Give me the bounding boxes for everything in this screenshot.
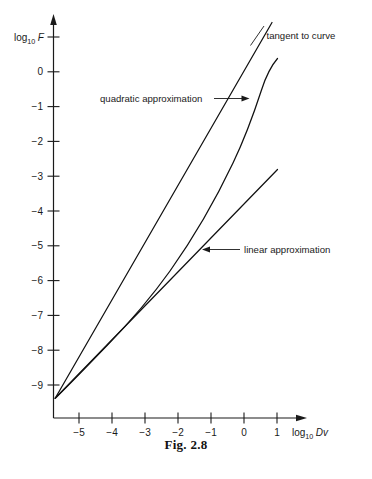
annotation-quadratic-approximation: quadratic approximation (100, 93, 250, 104)
y-tick-label-m1: −1 (32, 101, 44, 112)
y-tick-label-m2: −2 (32, 136, 44, 147)
figure-root: 0 −1 −2 −3 −4 −5 −6 −7 −8 −9 −5 −4 −3 −2 (0, 0, 372, 479)
axes-group (50, 14, 307, 421)
chart-canvas: 0 −1 −2 −3 −4 −5 −6 −7 −8 −9 −5 −4 −3 −2 (0, 0, 372, 479)
series-tangent-to-curve (55, 23, 272, 399)
y-axis-title: log10F (14, 32, 45, 46)
y-tick-label-m6: −6 (32, 275, 44, 286)
y-axis-arrowhead (50, 14, 57, 25)
y-tick-label-m9: −9 (32, 380, 44, 391)
y-tick-label-m4: −4 (32, 206, 44, 217)
y-axis-title-base: log (14, 32, 27, 43)
y-axis-title-subscript: 10 (27, 37, 35, 46)
figure-caption: Fig. 2.8 (0, 437, 372, 453)
quadratic-approximation-label: quadratic approximation (100, 93, 202, 104)
y-tick-label-0: 0 (37, 66, 43, 77)
tangent-to-curve-label: tangent to curve (267, 30, 336, 41)
annotation-linear-approximation: linear approximation (202, 244, 330, 255)
data-series-group (55, 23, 277, 399)
annotation-tangent-to-curve: tangent to curve (251, 26, 336, 46)
y-tick-label-m8: −8 (32, 345, 44, 356)
quadratic-approximation-arrowhead (242, 95, 250, 101)
y-tick-label-m7: −7 (32, 310, 44, 321)
y-axis-tick-labels: 0 −1 −2 −3 −4 −5 −6 −7 −8 −9 (32, 66, 44, 390)
x-axis-arrowhead (296, 415, 307, 422)
linear-approximation-arrowhead (202, 246, 210, 252)
linear-approximation-label: linear approximation (244, 244, 330, 255)
y-axis-title-variable: F (38, 32, 45, 43)
y-tick-label-m5: −5 (32, 240, 44, 251)
y-tick-label-m3: −3 (32, 171, 44, 182)
tangent-to-curve-leader (251, 26, 265, 46)
series-quadratic-approximation (55, 59, 277, 399)
